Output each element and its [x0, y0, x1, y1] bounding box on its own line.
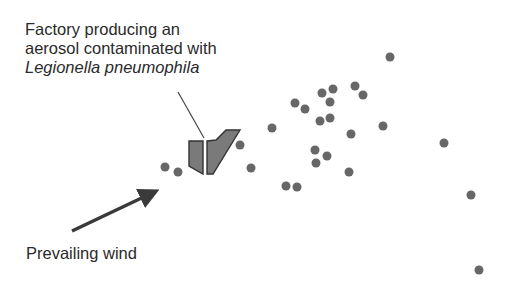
- case-point: [236, 141, 245, 150]
- case-point: [161, 163, 170, 172]
- case-point: [359, 91, 368, 100]
- case-point: [379, 122, 388, 131]
- outbreak-diagram: [0, 0, 522, 292]
- case-point: [329, 85, 338, 94]
- case-point: [293, 183, 302, 192]
- case-point: [351, 82, 360, 91]
- factory-right-block: [207, 130, 240, 174]
- case-point: [174, 168, 183, 177]
- leader-line: [178, 92, 204, 138]
- case-point: [467, 191, 476, 200]
- case-point: [312, 159, 321, 168]
- case-point: [326, 98, 335, 107]
- case-point: [301, 105, 310, 114]
- case-point: [318, 89, 327, 98]
- case-point: [440, 139, 449, 148]
- case-point: [247, 164, 256, 173]
- case-point: [345, 168, 354, 177]
- case-point: [282, 182, 291, 191]
- case-point: [311, 146, 320, 155]
- case-point: [326, 114, 335, 123]
- case-point: [386, 53, 395, 62]
- case-point: [316, 117, 325, 126]
- case-point: [323, 152, 332, 161]
- case-point: [291, 99, 300, 108]
- factory-icon: [189, 130, 240, 174]
- case-point: [268, 124, 277, 133]
- case-point: [347, 130, 356, 139]
- factory-left-block: [189, 141, 203, 174]
- prevailing-wind-arrow-icon: [72, 194, 150, 231]
- case-point: [475, 266, 484, 275]
